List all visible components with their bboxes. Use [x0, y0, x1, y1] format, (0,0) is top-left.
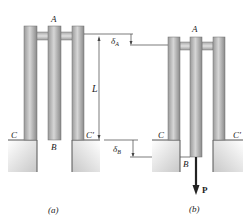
left-support-a — [8, 140, 37, 172]
bar-assembly-diagram: A C C′ B (a) L δA δB — [0, 0, 248, 220]
connector-plate-left-b — [180, 42, 191, 50]
right-support-b — [213, 140, 243, 172]
outer-bar-left-b — [168, 37, 180, 140]
load-label-p: P — [202, 185, 208, 195]
center-bar-a — [48, 26, 61, 140]
panel-a: A C C′ B (a) — [8, 14, 100, 215]
connector-plate-left-a — [36, 32, 49, 40]
panel-b: A C C′ B P (b) — [152, 24, 243, 214]
label-b-b: B — [183, 159, 189, 169]
left-support-b — [152, 140, 180, 172]
label-b-a: B — [51, 142, 57, 152]
load-arrow-p — [193, 157, 200, 195]
outer-bar-right-a — [72, 26, 84, 140]
label-c-left-b: C — [158, 130, 165, 140]
label-c-prime-a: C′ — [86, 130, 95, 140]
right-support-a — [72, 140, 100, 172]
delta-b-label: δB — [113, 144, 121, 155]
label-c-left-a: C — [11, 130, 18, 140]
outer-bar-left-a — [24, 26, 37, 140]
caption-a: (a) — [48, 205, 59, 215]
length-label: L — [91, 83, 98, 94]
label-a-top: A — [50, 14, 57, 24]
delta-a-label: δA — [111, 36, 119, 47]
connector-plate-right-b — [202, 42, 213, 50]
connector-plate-right-a — [60, 32, 73, 40]
caption-b: (b) — [189, 204, 200, 214]
label-a-top-b: A — [191, 24, 198, 34]
label-c-prime-b: C′ — [233, 130, 242, 140]
center-bar-b — [190, 37, 202, 157]
outer-bar-right-b — [213, 37, 225, 140]
